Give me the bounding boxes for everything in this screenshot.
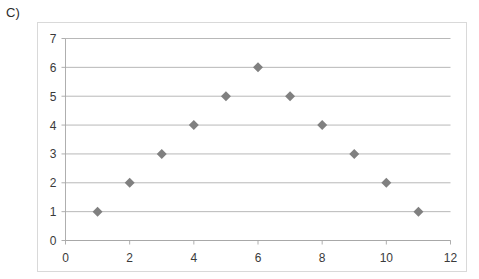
y-tick-label-1: 1	[50, 205, 57, 219]
x-tick-label-10: 10	[380, 251, 394, 265]
x-tick-label-4: 4	[190, 251, 197, 265]
data-point	[125, 178, 135, 188]
y-tick-label-5: 5	[50, 90, 57, 104]
data-point	[381, 178, 391, 188]
y-tick-label-7: 7	[50, 32, 57, 46]
x-tick-label-12: 12	[444, 251, 458, 265]
y-tick-label-6: 6	[50, 61, 57, 75]
x-tick-label-0: 0	[62, 251, 69, 265]
data-markers-group	[93, 62, 424, 216]
data-point	[253, 62, 263, 72]
x-tick-labels-group: 024681012	[62, 251, 457, 265]
data-point	[413, 207, 423, 217]
data-point	[285, 91, 295, 101]
data-point	[93, 207, 103, 217]
data-point	[317, 120, 327, 130]
y-tick-label-4: 4	[50, 119, 57, 133]
data-point	[221, 91, 231, 101]
x-tick-label-8: 8	[319, 251, 326, 265]
y-tick-labels-group: 01234567	[50, 32, 57, 248]
y-tick-label-0: 0	[50, 234, 57, 248]
data-point	[157, 149, 167, 159]
x-tick-label-6: 6	[255, 251, 262, 265]
y-tick-label-3: 3	[50, 147, 57, 161]
scatter-plot: 01234567 024681012	[0, 0, 479, 279]
x-tick-label-2: 2	[126, 251, 133, 265]
data-point	[189, 120, 199, 130]
y-tick-label-2: 2	[50, 176, 57, 190]
data-point	[349, 149, 359, 159]
